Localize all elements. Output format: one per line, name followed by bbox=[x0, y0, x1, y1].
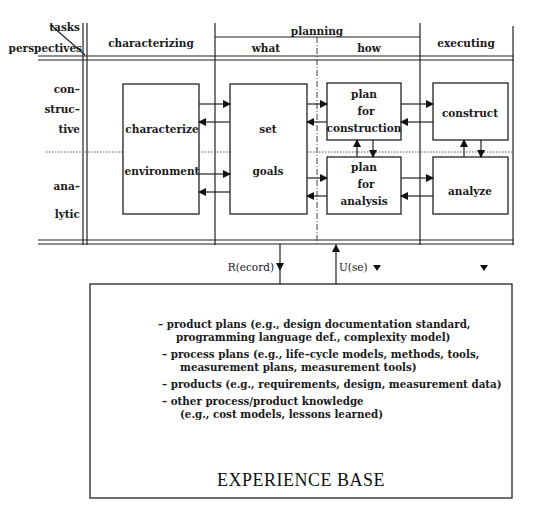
header-planning: planning bbox=[291, 26, 343, 37]
box-characterize-line1: characterize bbox=[125, 124, 198, 135]
header-perspectives: perspectives bbox=[9, 43, 82, 54]
box-construct: construct bbox=[442, 108, 498, 119]
kb-item-process-plans: – process plans (e.g., life–cycle models… bbox=[162, 348, 502, 374]
box-set-goals-line1: set bbox=[259, 124, 276, 135]
box-analyze: analyze bbox=[448, 186, 492, 197]
header-what: what bbox=[252, 43, 280, 54]
use-label: U(se) bbox=[339, 262, 368, 273]
experience-base-content: – product plans (e.g., design documentat… bbox=[158, 318, 502, 425]
diagram-lines bbox=[0, 0, 552, 509]
header-characterizing: characterizing bbox=[108, 38, 194, 49]
row-label-constructive-1: con– bbox=[54, 84, 80, 95]
row-label-analytic-1: ana– bbox=[54, 181, 81, 192]
experience-base-title: EXPERIENCE BASE bbox=[217, 470, 385, 491]
box-plan-analysis-line1: plan bbox=[351, 162, 377, 173]
box-plan-analysis-line2: for bbox=[357, 179, 374, 190]
box-set-goals-line2: goals bbox=[252, 166, 283, 177]
box-plan-construction-line3: construction bbox=[327, 123, 402, 134]
record-label: R(ecord) bbox=[228, 262, 274, 273]
row-label-analytic-2: lytic bbox=[55, 209, 80, 220]
row-label-constructive-2: struc– bbox=[44, 104, 80, 115]
header-tasks: tasks bbox=[49, 22, 80, 33]
box-characterize-line2: environment bbox=[125, 166, 200, 177]
box-plan-construction-line1: plan bbox=[351, 89, 377, 100]
box-plan-construction-line2: for bbox=[357, 106, 374, 117]
box-plan-analysis-line3: analysis bbox=[340, 196, 387, 207]
header-executing: executing bbox=[437, 38, 494, 49]
kb-item-other-knowledge: – other process/product knowledge (e.g.,… bbox=[162, 395, 502, 421]
kb-item-products: – products (e.g., requirements, design, … bbox=[162, 378, 502, 391]
kb-item-product-plans: – product plans (e.g., design documentat… bbox=[158, 318, 502, 344]
row-label-constructive-3: tive bbox=[58, 124, 80, 135]
header-how: how bbox=[357, 43, 381, 54]
